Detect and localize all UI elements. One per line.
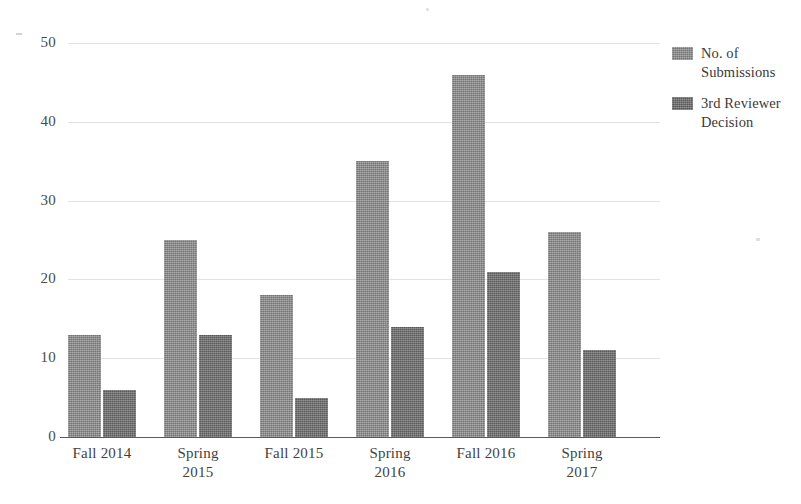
bar-submissions-fall-2016 <box>452 75 485 437</box>
bar-submissions-spring-2016 <box>356 161 389 437</box>
legend-label-submissions: No. of Submissions <box>701 44 775 82</box>
y-tick-label-40: 40 <box>16 114 56 129</box>
legend-item-submissions[interactable]: No. of Submissions <box>672 44 800 82</box>
legend: No. of Submissions 3rd Reviewer Decision <box>672 44 800 144</box>
bar-chart: 50 40 30 20 10 0 <box>0 0 801 504</box>
x-tick-label-spring-2017: Spring 2017 <box>532 444 632 482</box>
y-axis: 50 40 30 20 10 0 <box>10 43 56 437</box>
x-tick-label-fall-2015: Fall 2015 <box>244 444 344 463</box>
legend-label-third-reviewer: 3rd Reviewer Decision <box>701 94 781 132</box>
y-tick-label-30: 30 <box>16 193 56 208</box>
bar-submissions-fall-2015 <box>260 295 293 437</box>
scan-artifact <box>426 8 429 11</box>
bar-third-reviewer-fall-2014 <box>103 390 136 437</box>
legend-swatch-third-reviewer-icon <box>672 97 693 110</box>
bar-submissions-spring-2015 <box>164 240 197 437</box>
gridline-50 <box>68 43 660 44</box>
legend-item-third-reviewer[interactable]: 3rd Reviewer Decision <box>672 94 800 132</box>
y-tick-label-10: 10 <box>16 350 56 365</box>
bar-third-reviewer-spring-2016 <box>391 327 424 437</box>
x-tick-label-fall-2016: Fall 2016 <box>436 444 536 463</box>
x-tick-label-spring-2016: Spring 2016 <box>340 444 440 482</box>
x-axis: Fall 2014 Spring 2015 Fall 2015 Spring 2… <box>68 444 660 502</box>
y-tick-label-20: 20 <box>16 271 56 286</box>
bar-submissions-fall-2014 <box>68 335 101 437</box>
bar-submissions-spring-2017 <box>548 232 581 437</box>
legend-swatch-submissions-icon <box>672 47 693 60</box>
plot-area <box>68 43 660 437</box>
y-tick-label-0: 0 <box>16 429 56 444</box>
x-tick-label-spring-2015: Spring 2015 <box>148 444 248 482</box>
y-tick-label-50: 50 <box>16 35 56 50</box>
gridline-40 <box>68 122 660 123</box>
x-tick-label-fall-2014: Fall 2014 <box>52 444 152 463</box>
bar-third-reviewer-spring-2017 <box>583 350 616 437</box>
scan-artifact <box>756 238 760 241</box>
bar-third-reviewer-spring-2015 <box>199 335 232 437</box>
x-axis-line <box>60 437 660 438</box>
bar-third-reviewer-fall-2016 <box>487 272 520 437</box>
bar-third-reviewer-fall-2015 <box>295 398 328 437</box>
